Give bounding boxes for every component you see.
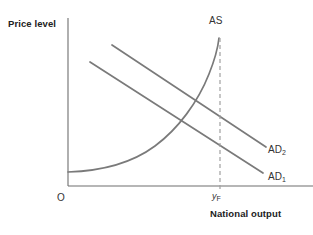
ad1-label-text: AD [268, 171, 282, 182]
ad2-label-text: AD [268, 144, 282, 155]
ad1-label-subscript: 1 [282, 176, 286, 183]
yf-label-text: y [212, 191, 217, 201]
yf-label-subscript: F [217, 195, 221, 202]
origin-label: O [57, 193, 65, 203]
ad2-curve-label: AD2 [268, 145, 286, 155]
ad1-curve-label: AD1 [268, 172, 286, 182]
axes-group [68, 18, 313, 186]
diagram-canvas [0, 0, 313, 235]
curves-group [68, 38, 266, 173]
as-curve-label: AS [209, 16, 222, 26]
x-axis-label: National output [210, 209, 281, 219]
as-curve [68, 38, 219, 172]
ad1-curve [90, 62, 263, 173]
ad2-curve [112, 45, 266, 147]
y-axis-label: Price level [8, 19, 56, 29]
ad-as-diagram: Price level AS AD2 AD1 O yF National out… [0, 0, 313, 235]
yf-tick-label: yF [212, 192, 221, 201]
ad2-label-subscript: 2 [282, 149, 286, 156]
